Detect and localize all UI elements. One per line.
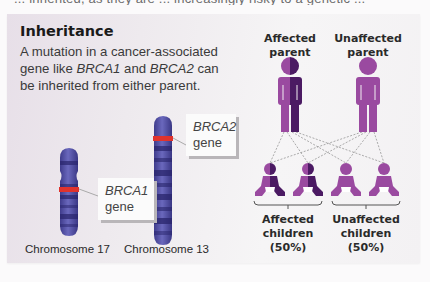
affected-children-label: Affected children (50%) — [258, 213, 318, 255]
affected-parent-label: Affected parent — [260, 32, 320, 60]
inheritance-connectors — [270, 132, 384, 163]
affected-children-bracket — [254, 201, 322, 209]
unaffected-child-icon-2 — [369, 163, 399, 196]
unaffected-parent-label: Unaffected parent — [333, 32, 403, 60]
brca1-marker — [59, 187, 79, 192]
brca2-gene-suffix: gene — [193, 135, 222, 150]
chromosome-17 — [59, 148, 98, 236]
brca1-gene-name: BRCA1 — [105, 183, 147, 199]
chromosome-13-label: Chromosome 13 — [124, 243, 209, 255]
brca2-gene-name: BRCA2 — [193, 119, 229, 135]
unaffected-parent-icon — [356, 57, 380, 132]
brca2-callout: BRCA2 gene — [186, 114, 236, 156]
unaffected-child-icon-1 — [331, 163, 361, 196]
unaffected-children-bracket — [332, 201, 400, 209]
brca2-marker — [153, 136, 173, 141]
affected-child-icon-1 — [255, 163, 285, 196]
affected-child-icon-2 — [293, 163, 323, 196]
brca1-gene-suffix: gene — [105, 199, 134, 214]
unaffected-children-label: Unaffected children (50%) — [331, 213, 401, 255]
chromosome-13 — [153, 116, 186, 245]
brca1-callout: BRCA1 gene — [98, 178, 154, 220]
chromosome-17-label: Chromosome 17 — [25, 243, 110, 255]
affected-parent-icon — [278, 57, 302, 132]
